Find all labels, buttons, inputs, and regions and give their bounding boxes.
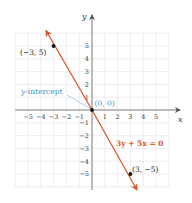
- svg-text:1: 1: [103, 113, 107, 121]
- svg-text:3: 3: [85, 68, 89, 76]
- svg-text:−1: −1: [79, 119, 89, 127]
- point-label-3-neg5: (3, −5): [132, 165, 159, 174]
- svg-text:−5: −5: [23, 113, 33, 121]
- svg-text:−4: −4: [79, 158, 89, 166]
- svg-text:−2: −2: [62, 113, 72, 121]
- svg-text:−5: −5: [79, 170, 89, 178]
- svg-text:−2: −2: [79, 132, 89, 140]
- svg-text:5: 5: [85, 42, 89, 50]
- svg-text:5: 5: [154, 113, 158, 121]
- coordinate-plane-graph: x y −5 −4 −3 −2 −1 1 2 3 4 5 −5 −4 −3 −2…: [0, 0, 192, 203]
- point-label-origin: (0, 0): [95, 99, 115, 108]
- svg-text:4: 4: [141, 113, 145, 121]
- point-neg3-5: [52, 44, 56, 48]
- svg-text:3: 3: [128, 113, 132, 121]
- x-tick-labels: −5 −4 −3 −2 −1 1 2 3 4 5: [23, 113, 158, 121]
- svg-text:4: 4: [85, 55, 89, 63]
- y-axis-label: y: [81, 12, 87, 21]
- svg-text:−3: −3: [49, 113, 59, 121]
- svg-text:−4: −4: [36, 113, 46, 121]
- svg-text:2: 2: [85, 81, 89, 89]
- point-origin: [90, 108, 94, 112]
- x-axis-label: x: [178, 115, 183, 124]
- svg-text:−3: −3: [79, 145, 89, 153]
- y-intercept-label: y-intercept: [20, 87, 63, 96]
- svg-text:2: 2: [116, 113, 120, 121]
- point-label-neg3-5: (−3, 5): [20, 48, 47, 57]
- equation-label: 3y + 5x = 0: [116, 139, 164, 148]
